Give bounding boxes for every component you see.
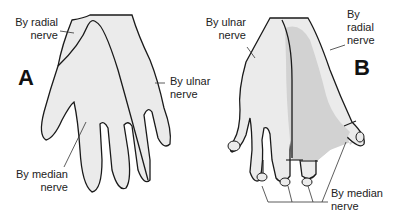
- hand-a-outline: [41, 15, 170, 192]
- panel-b-radial-label: By radial nerve: [347, 8, 375, 47]
- panel-a-radial-label: By radial nerve: [6, 16, 58, 42]
- hand-b: [228, 18, 364, 202]
- panel-b-letter: B: [354, 55, 370, 81]
- panel-a-median-label: By median nerve: [4, 168, 68, 194]
- panel-b-median-label: By median nerve: [331, 187, 383, 213]
- panel-a-ulnar-label: By ulnar nerve: [170, 75, 210, 101]
- panel-b-ulnar-label: By ulnar nerve: [196, 16, 246, 42]
- panel-a-letter: A: [18, 65, 34, 91]
- hand-a: [41, 15, 170, 192]
